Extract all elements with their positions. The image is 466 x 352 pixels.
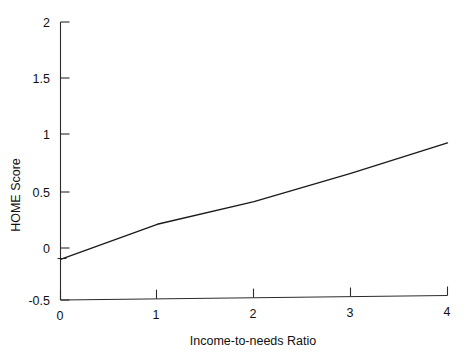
x-tick-label-3: 3 xyxy=(347,306,354,320)
y-tick-label-1-5: 1.5 xyxy=(33,72,50,86)
y-tick-label-0-5: 0.5 xyxy=(33,186,50,200)
y-tick-label-0: 0 xyxy=(43,242,50,256)
x-axis-title: Income-to-needs Ratio xyxy=(190,334,317,348)
y-axis-title: HOME Score xyxy=(9,158,23,232)
x-tick-label-0: 0 xyxy=(57,309,64,323)
y-tick-label-1: 1 xyxy=(43,128,50,142)
chart-canvas: 2 1.5 1 0.5 0 -0.5 0 1 2 3 4 HOME Score … xyxy=(0,0,466,352)
chart-figure: 2 1.5 1 0.5 0 -0.5 0 1 2 3 4 HOME Score … xyxy=(0,0,466,352)
x-tick-label-4: 4 xyxy=(444,305,451,319)
y-tick-label-neg-0-5: -0.5 xyxy=(28,294,50,308)
y-tick-label-2: 2 xyxy=(43,16,50,30)
x-tick-label-1: 1 xyxy=(153,308,160,322)
data-line-predicted-home-score xyxy=(61,143,448,259)
x-tick-label-2: 2 xyxy=(250,307,257,321)
